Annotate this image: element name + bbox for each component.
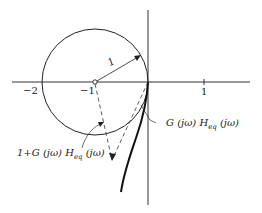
diagram-graphics xyxy=(0,0,262,213)
open-loop-label: G (jω) Heq (jω) xyxy=(166,118,239,131)
vector-arrowhead xyxy=(109,153,116,161)
radius-arrowhead xyxy=(134,55,141,61)
closed-loop-leader xyxy=(82,123,103,148)
closed-loop-label: 1+G (jω) Heq (jω) xyxy=(17,148,105,161)
radius-vector xyxy=(97,57,138,81)
tick-label-one: 1 xyxy=(201,87,207,97)
critical-point xyxy=(93,80,97,84)
tick-label-minus-one: −1 xyxy=(80,86,95,96)
tick-label-minus-two: −2 xyxy=(23,86,38,96)
open-loop-vector xyxy=(113,82,148,158)
nyquist-curve xyxy=(121,82,148,192)
nyquist-figure: −2 −1 1 1 G (jω) Heq (jω) 1+G (jω) Heq (… xyxy=(0,0,262,213)
